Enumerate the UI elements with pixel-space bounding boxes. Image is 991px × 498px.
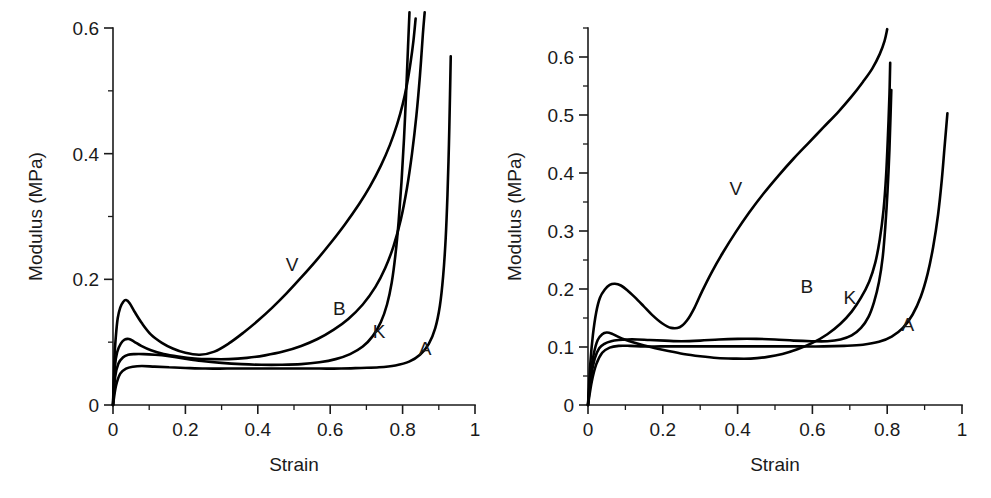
y-tick-label: 0.3 (548, 221, 574, 242)
x-tick-label: 0.4 (724, 419, 751, 440)
curves-group: VBKA (113, 12, 451, 405)
chart-panel-right: 00.10.20.30.40.50.600.20.40.60.81StrainM… (495, 0, 991, 498)
axes-group: 00.20.40.600.20.40.60.81StrainModulus (M… (25, 18, 480, 475)
x-tick-label: 1 (957, 419, 968, 440)
x-tick-label: 0.6 (317, 419, 343, 440)
x-tick-label: 1 (470, 419, 481, 440)
x-tick-label: 0 (108, 419, 119, 440)
y-axis-title: Modulus (MPa) (504, 152, 525, 281)
x-tick-label: 0.2 (172, 419, 198, 440)
curve-v (588, 29, 887, 405)
y-tick-label: 0 (88, 395, 99, 416)
y-tick-label: 0.6 (73, 18, 99, 39)
series-label-a: A (901, 314, 914, 335)
chart-panel-left: 00.20.40.600.20.40.60.81StrainModulus (M… (0, 0, 496, 498)
x-axis-title: Strain (750, 454, 800, 475)
series-label-k: K (373, 321, 386, 342)
x-tick-label: 0.8 (389, 419, 415, 440)
x-tick-label: 0 (583, 419, 594, 440)
y-tick-label: 0.4 (548, 163, 575, 184)
y-tick-label: 0 (563, 395, 574, 416)
series-label-v: V (286, 254, 299, 275)
x-axis-title: Strain (269, 454, 319, 475)
y-axis-title: Modulus (MPa) (25, 152, 46, 281)
curve-b (113, 12, 425, 405)
x-tick-label: 0.8 (874, 419, 900, 440)
curve-b (588, 63, 890, 405)
x-tick-label: 0.6 (799, 419, 825, 440)
y-tick-label: 0.2 (73, 269, 99, 290)
curve-a (588, 113, 947, 405)
y-tick-label: 0.4 (73, 144, 100, 165)
y-tick-label: 0.2 (548, 279, 574, 300)
axes-group: 00.10.20.30.40.50.600.20.40.60.81StrainM… (504, 28, 967, 475)
curves-group: VBKA (588, 29, 947, 405)
y-tick-label: 0.5 (548, 105, 574, 126)
curve-v (113, 19, 416, 405)
series-label-b: B (333, 298, 346, 319)
x-tick-label: 0.4 (245, 419, 272, 440)
curve-k (113, 12, 409, 405)
chart-svg-right: 00.10.20.30.40.50.600.20.40.60.81StrainM… (495, 0, 991, 498)
y-tick-label: 0.1 (548, 337, 574, 358)
figure-root: 00.20.40.600.20.40.60.81StrainModulus (M… (0, 0, 991, 498)
series-label-k: K (843, 287, 856, 308)
chart-svg-left: 00.20.40.600.20.40.60.81StrainModulus (M… (0, 0, 496, 498)
series-label-a: A (419, 338, 432, 359)
series-label-v: V (729, 178, 742, 199)
x-tick-label: 0.2 (650, 419, 676, 440)
y-tick-label: 0.6 (548, 47, 574, 68)
series-label-b: B (800, 276, 813, 297)
